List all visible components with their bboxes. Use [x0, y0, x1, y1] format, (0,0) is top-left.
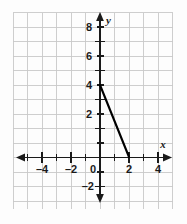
- x-tick-label-neg2: –2: [65, 163, 77, 175]
- y-tick-label-neg2: –2: [82, 180, 94, 192]
- y-tick-label-2: 2: [86, 108, 92, 120]
- x-tick-label-4: 4: [155, 163, 162, 175]
- y-tick-label-6: 6: [86, 50, 92, 62]
- coordinate-plane-svg: 8 6 4 2 –2 –4 –2 0 2 4 y x: [0, 0, 187, 224]
- x-tick-label-2: 2: [126, 163, 132, 175]
- x-tick-label-origin: 0: [90, 163, 96, 175]
- y-axis-name-label: y: [104, 14, 111, 26]
- x-axis-name-label: x: [159, 138, 166, 150]
- y-tick-label-8: 8: [86, 21, 92, 33]
- y-tick-label-4: 4: [86, 79, 93, 91]
- graph-figure: 8 6 4 2 –2 –4 –2 0 2 4 y x: [0, 0, 187, 224]
- x-tick-label-neg4: –4: [36, 163, 49, 175]
